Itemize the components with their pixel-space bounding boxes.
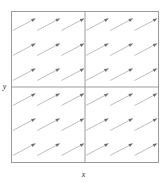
field-arrow-head [80, 68, 84, 71]
field-arrow-head [104, 18, 108, 21]
field-arrow-head [31, 93, 35, 96]
field-arrow-head [153, 68, 157, 71]
field-arrow-head [31, 43, 35, 46]
plot-frame [11, 11, 159, 163]
field-arrow-head [55, 43, 59, 46]
field-arrow-head [55, 68, 59, 71]
field-arrow-head [153, 143, 157, 146]
quadrant-gridlines [12, 12, 158, 162]
field-arrow-head [128, 68, 132, 71]
x-axis-label: x [0, 171, 167, 179]
field-arrow-head [153, 118, 157, 121]
field-arrow-head [55, 18, 59, 21]
direction-field-figure: y x [0, 0, 167, 185]
field-arrow-head [128, 43, 132, 46]
field-arrow-head [104, 43, 108, 46]
field-arrow-head [153, 43, 157, 46]
field-arrow-head [31, 18, 35, 21]
field-arrow-head [80, 18, 84, 21]
field-arrow-head [55, 143, 59, 146]
field-arrow-head [128, 18, 132, 21]
field-arrow-head [128, 93, 132, 96]
field-arrow-head [104, 68, 108, 71]
field-arrow-head [153, 18, 157, 21]
field-arrow-head [128, 143, 132, 146]
field-arrow-head [128, 118, 132, 121]
field-arrow-head [31, 68, 35, 71]
field-arrow-head [153, 93, 157, 96]
field-arrow-head [55, 93, 59, 96]
y-axis-label: y [0, 83, 9, 91]
field-arrow-head [55, 118, 59, 121]
vector-field [12, 12, 158, 162]
field-arrow-head [104, 143, 108, 146]
field-arrow-head [80, 93, 84, 96]
field-arrow-head [31, 118, 35, 121]
field-arrow-head [104, 93, 108, 96]
field-arrow-head [80, 143, 84, 146]
field-arrow-head [80, 118, 84, 121]
field-arrow-head [31, 143, 35, 146]
field-arrow-head [104, 118, 108, 121]
field-arrow-head [80, 43, 84, 46]
